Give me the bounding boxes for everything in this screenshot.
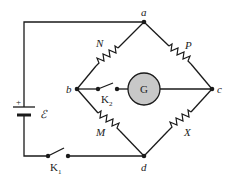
switch-k1[interactable] <box>46 148 70 158</box>
node-a-label: a <box>141 6 147 18</box>
switch-k2-label: K <box>101 93 109 105</box>
resistor-x-label: X <box>183 126 192 138</box>
switch-k1-subscript: 1 <box>58 168 62 176</box>
node-a <box>142 20 147 25</box>
resistor-n-label: N <box>95 37 104 49</box>
node-d <box>142 154 147 159</box>
node-b <box>75 87 80 92</box>
switch-k2-subscript: 2 <box>109 100 113 108</box>
resistor-p-label: P <box>184 39 192 51</box>
node-d-label: d <box>141 161 147 173</box>
switch-k1-label: K <box>50 161 58 173</box>
resistor-m-label: M <box>95 126 106 138</box>
node-c <box>210 87 215 92</box>
node-c-label: c <box>217 83 222 95</box>
battery-plus-label: + <box>16 97 21 107</box>
switch-k2[interactable] <box>96 87 119 91</box>
emf-label: ℰ <box>40 108 48 120</box>
galvanometer-label: G <box>140 83 148 95</box>
battery-icon <box>13 107 35 115</box>
wheatstone-bridge-diagram: + ℰ K 1 N P M X <box>0 0 237 181</box>
node-b-label: b <box>66 83 72 95</box>
